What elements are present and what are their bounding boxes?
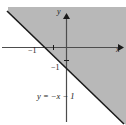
- y-axis-name-label: y: [57, 8, 61, 16]
- inequality-graph-figure: −1 −1 y x y = −x − 1: [0, 0, 126, 125]
- graph-canvas: [0, 0, 126, 125]
- y-axis-tick-label: −1: [51, 64, 60, 72]
- x-axis-tick-label: −1: [28, 47, 37, 55]
- x-axis-name-label: x: [116, 46, 120, 54]
- top-margin-strip: [0, 0, 126, 7]
- equation-annotation: y = −x − 1: [37, 92, 75, 101]
